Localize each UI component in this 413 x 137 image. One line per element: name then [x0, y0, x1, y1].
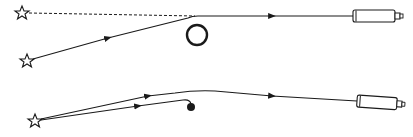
diagram-canvas	[0, 0, 413, 137]
telescope-icon	[357, 95, 406, 110]
lower-light-ray-cont	[138, 100, 191, 106]
lensing-diagram	[0, 0, 413, 137]
bottom-panel	[28, 91, 405, 127]
source-star-icon	[28, 114, 42, 127]
true-star-icon	[20, 54, 34, 67]
apparent-star-icon	[15, 6, 29, 19]
upper-light-ray	[41, 96, 148, 119]
upper-light-ray-cont	[148, 91, 272, 96]
massive-object-circle	[187, 25, 207, 45]
apparent-path-dashed-line	[29, 13, 195, 16]
compact-object-dot	[187, 103, 195, 111]
incoming-light-ray-cont	[108, 16, 198, 38]
top-panel	[15, 6, 403, 67]
incoming-light-ray	[33, 38, 108, 59]
upper-light-ray-end	[272, 96, 357, 101]
telescope-icon	[353, 10, 403, 22]
